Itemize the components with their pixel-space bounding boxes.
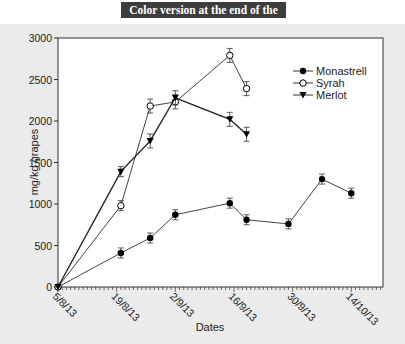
y-tick-label: 500 — [34, 240, 52, 252]
x-axis-title: Dates — [196, 321, 225, 333]
y-tick-label: 0 — [46, 281, 52, 293]
filled-circle-marker — [147, 235, 153, 241]
y-axis-title: mg/kg grapes — [28, 128, 40, 195]
filled-circle-marker — [348, 190, 354, 196]
open-circle-marker — [227, 52, 233, 58]
filled-circle-marker — [243, 217, 249, 223]
y-tick-label: 1000 — [29, 198, 53, 210]
filled-circle-marker — [118, 250, 124, 256]
x-tick-label: 30/9/13 — [285, 290, 318, 323]
open-circle-marker — [243, 85, 249, 91]
legend-label: Monastrell — [316, 65, 367, 77]
x-tick-label: 14/10/13 — [344, 290, 381, 327]
y-tick-label: 2000 — [29, 115, 53, 127]
legend-label: Merlot — [316, 89, 347, 101]
y-tick-label: 2500 — [29, 74, 53, 86]
x-tick-label: 19/8/13 — [109, 290, 142, 323]
line-chart: 050010001500200025003000 5/8/1319/8/132/… — [0, 24, 405, 344]
open-circle-marker — [300, 80, 306, 86]
x-tick-label: 2/9/13 — [168, 290, 197, 319]
open-circle-marker — [118, 202, 124, 208]
filled-circle-marker — [300, 68, 306, 74]
chart-figure: 050010001500200025003000 5/8/1319/8/132/… — [0, 24, 405, 344]
filled-circle-marker — [227, 200, 233, 206]
y-tick-label: 3000 — [29, 32, 53, 44]
x-tick-label: 5/8/13 — [51, 290, 80, 319]
filled-circle-marker — [172, 212, 178, 218]
legend-label: Syrah — [316, 77, 345, 89]
color-version-banner: Color version at the end of the book — [121, 2, 286, 18]
x-tick-label: 16/9/13 — [227, 290, 260, 323]
filled-circle-marker — [285, 221, 291, 227]
open-circle-marker — [147, 103, 153, 109]
filled-circle-marker — [319, 176, 325, 182]
